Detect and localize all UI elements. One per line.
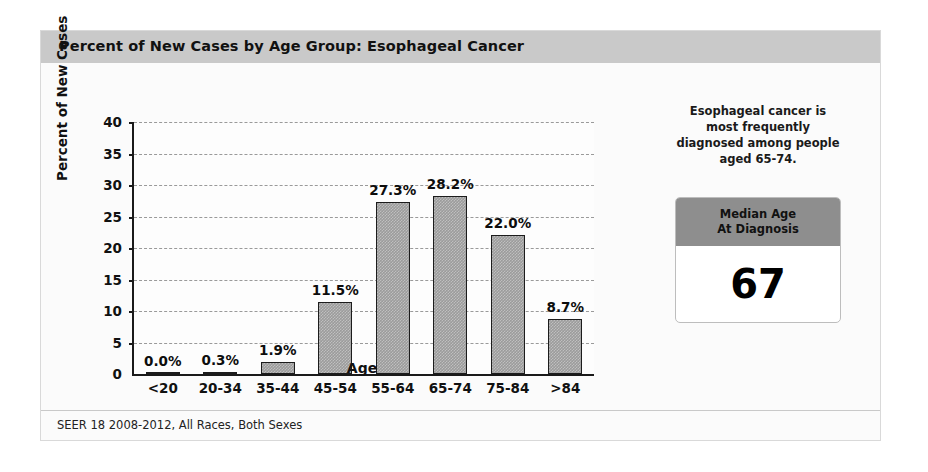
bar-group: 28.2%65-74 xyxy=(422,122,480,374)
plot-area: 0.0%<200.3%20-341.9%35-4411.5%45-5427.3%… xyxy=(132,122,594,376)
summary-note-line-2: most frequently xyxy=(653,119,863,135)
x-axis-tick-label: 55-64 xyxy=(371,380,414,396)
bar-group: 0.3%20-34 xyxy=(192,122,250,374)
source-note: SEER 18 2008-2012, All Races, Both Sexes xyxy=(57,418,302,432)
bar-group: 22.0%75-84 xyxy=(479,122,537,374)
bar-group: 0.0%<20 xyxy=(134,122,192,374)
y-axis-tick-label: 40 xyxy=(103,114,122,130)
x-axis-tick-label: 20-34 xyxy=(199,380,242,396)
x-axis-title: Age xyxy=(132,360,592,376)
footer-divider xyxy=(41,410,880,411)
summary-note-line-1: Esophageal cancer is xyxy=(653,103,863,119)
page-title: Percent of New Cases by Age Group: Esoph… xyxy=(59,38,524,54)
x-axis-tick-label: 65-74 xyxy=(429,380,472,396)
median-age-box: Median Age At Diagnosis 67 xyxy=(675,197,841,323)
y-axis-tick-label: 35 xyxy=(103,146,122,162)
y-axis-tick-labels: 0510152025303540 xyxy=(88,122,126,374)
bar-group: 11.5%45-54 xyxy=(307,122,365,374)
x-axis-tick-label: 45-54 xyxy=(314,380,357,396)
bar-value-label: 11.5% xyxy=(312,282,359,298)
y-axis-tick-label: 25 xyxy=(103,209,122,225)
y-axis-tick-label: 30 xyxy=(103,177,122,193)
y-axis-title: Percent of New Cases xyxy=(54,16,70,181)
median-age-title-line-1: Median Age xyxy=(717,207,799,222)
x-axis-tick-label: 35-44 xyxy=(256,380,299,396)
y-axis-tick-label: 15 xyxy=(103,272,122,288)
y-axis-tick-label: 20 xyxy=(103,240,122,256)
bar-value-label: 27.3% xyxy=(369,182,416,198)
summary-note: Esophageal cancer is most frequently dia… xyxy=(653,103,863,167)
bar-group: 1.9%35-44 xyxy=(249,122,307,374)
x-axis-tick-label: <20 xyxy=(148,380,178,396)
y-axis-tick-label: 10 xyxy=(103,303,122,319)
chart-card: Percent of New Cases by Age Group: Esoph… xyxy=(40,30,881,441)
bar-value-label: 1.9% xyxy=(259,342,296,358)
y-axis-tick-label: 5 xyxy=(113,335,122,351)
bar-value-label: 22.0% xyxy=(484,215,531,231)
bar-chart: Percent of New Cases 0510152025303540 0.… xyxy=(66,77,626,397)
bar[interactable] xyxy=(433,196,467,374)
x-axis-tick-label: >84 xyxy=(550,380,580,396)
bar-value-label: 8.7% xyxy=(547,299,584,315)
bar[interactable] xyxy=(491,235,525,374)
bar-value-label: 28.2% xyxy=(427,176,474,192)
side-panel: Esophageal cancer is most frequently dia… xyxy=(653,89,863,389)
bar-group: 8.7%>84 xyxy=(537,122,595,374)
title-band: Percent of New Cases by Age Group: Esoph… xyxy=(41,31,880,63)
median-age-box-header: Median Age At Diagnosis xyxy=(676,198,840,246)
median-age-value: 67 xyxy=(676,246,840,322)
x-axis-tick-label: 75-84 xyxy=(486,380,529,396)
median-age-title-line-2: At Diagnosis xyxy=(717,222,799,237)
y-axis-tick-label: 0 xyxy=(113,366,122,382)
bar[interactable] xyxy=(376,202,410,374)
bar-group: 27.3%55-64 xyxy=(364,122,422,374)
summary-note-line-4: aged 65-74. xyxy=(653,151,863,167)
summary-note-line-3: diagnosed among people xyxy=(653,135,863,151)
